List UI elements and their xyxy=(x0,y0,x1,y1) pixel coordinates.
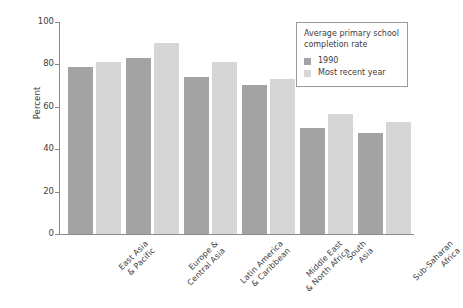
x-tick-label-latin-america-caribbean: Latin America & Caribbean xyxy=(239,239,293,293)
y-axis-ticks: 100 80 60 40 20 0 xyxy=(28,0,54,308)
bar-recent-south-asia xyxy=(328,114,353,234)
legend-title: Average primary school completion rate xyxy=(304,29,400,50)
x-tick-label-europe-central-asia: Europe & Central Asia xyxy=(179,239,228,288)
legend: Average primary school completion rate 1… xyxy=(296,22,408,87)
legend-item-1990: 1990 xyxy=(304,55,400,67)
x-tick-label-east-asia-pacific: East Asia & Pacific xyxy=(117,239,158,280)
bar-1990-latin-america-caribbean xyxy=(184,77,209,234)
legend-swatch-icon xyxy=(304,70,311,77)
y-tick-label: 100 xyxy=(38,16,54,27)
bar-1990-europe-central-asia xyxy=(126,58,151,234)
legend-title-line: completion rate xyxy=(304,40,367,49)
bar-1990-sub-saharan-africa xyxy=(358,133,383,234)
x-tick-label-sub-saharan-africa: Sub-Saharan Africa xyxy=(411,239,462,290)
bar-recent-middle-east-north-africa xyxy=(270,79,295,234)
y-tick-label: 60 xyxy=(43,101,54,112)
bar-recent-latin-america-caribbean xyxy=(212,62,237,234)
bar-1990-south-asia xyxy=(300,128,325,234)
bar-recent-sub-saharan-africa xyxy=(386,122,411,234)
x-axis-line xyxy=(59,234,414,235)
legend-swatch-icon xyxy=(304,58,311,65)
y-tick-label: 80 xyxy=(43,58,54,69)
bar-1990-middle-east-north-africa xyxy=(242,85,267,235)
y-tick-label: 0 xyxy=(49,228,54,239)
legend-title-line: Average primary school xyxy=(304,29,399,38)
legend-item-most-recent-year: Most recent year xyxy=(304,67,400,79)
legend-item-label: Most recent year xyxy=(318,67,386,79)
bar-recent-east-asia-pacific xyxy=(96,62,121,234)
legend-item-label: 1990 xyxy=(318,55,338,67)
x-tick-label-middle-east-north-africa: Middle East & North Africa xyxy=(297,239,352,294)
x-tick-label-south-asia: South Asia xyxy=(345,239,376,270)
y-tick-label: 20 xyxy=(43,186,54,197)
bar-recent-europe-central-asia xyxy=(154,43,179,234)
y-tick-label: 40 xyxy=(43,143,54,154)
bar-1990-east-asia-pacific xyxy=(68,67,93,235)
